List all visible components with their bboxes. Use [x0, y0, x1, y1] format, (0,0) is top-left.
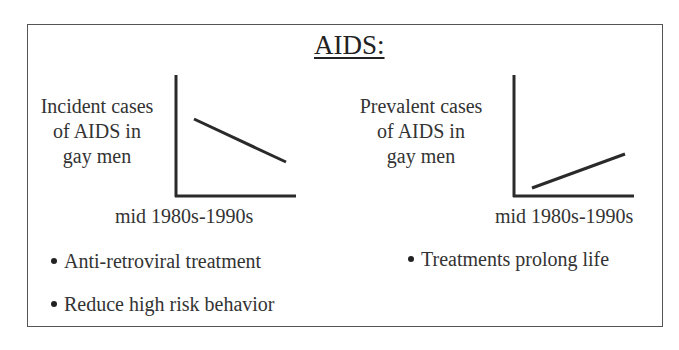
prevalent-chart	[513, 75, 634, 197]
prevalent-ylabel-line-1: Prevalent cases	[340, 94, 502, 119]
bullet-text: Reduce high risk behavior	[64, 293, 275, 315]
incident-bullet-2: Reduce high risk behavior	[51, 293, 275, 316]
bullet-dot-icon	[408, 256, 414, 262]
prevalent-xlabel: mid 1980s-1990s	[495, 205, 633, 228]
prevalent-ylabel-line-2: of AIDS in	[340, 119, 502, 144]
incident-trend-line	[194, 119, 286, 162]
bullet-dot-icon	[51, 301, 57, 307]
incident-bullet-1: Anti-retroviral treatment	[51, 250, 261, 273]
bullet-text: Treatments prolong life	[421, 248, 609, 270]
bullet-text: Anti-retroviral treatment	[64, 250, 261, 272]
incident-xlabel: mid 1980s-1990s	[115, 205, 253, 228]
bullet-dot-icon	[51, 258, 57, 264]
prevalent-bullet-1: Treatments prolong life	[408, 248, 609, 271]
prevalent-trend-line	[532, 154, 625, 188]
prevalent-ylabel-line-3: gay men	[340, 144, 502, 169]
incident-chart	[175, 75, 296, 197]
prevalent-ylabel: Prevalent cases of AIDS in gay men	[340, 94, 502, 169]
